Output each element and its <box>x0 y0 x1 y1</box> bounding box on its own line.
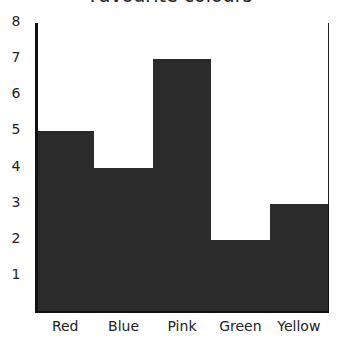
bar-cell <box>153 95 212 132</box>
bar-cell <box>270 240 329 277</box>
bar-cell <box>94 240 153 277</box>
bar-cell <box>94 204 153 241</box>
grid-cell <box>36 59 95 96</box>
bar-cell <box>36 240 95 277</box>
bar-cell <box>36 168 95 205</box>
bar-cell <box>153 240 212 277</box>
y-axis-line <box>35 23 38 313</box>
grid-cell <box>94 95 153 132</box>
chart-title: Favourite colours <box>0 0 342 6</box>
bar-cell <box>153 276 212 313</box>
grid-cell <box>270 131 329 168</box>
bar-cell <box>94 168 153 205</box>
grid-cell <box>211 204 270 241</box>
y-tick-label: 7 <box>8 49 24 65</box>
x-tick-label: Blue <box>94 318 152 334</box>
grid-cell <box>270 59 329 96</box>
grid-cell <box>211 95 270 132</box>
x-tick-label: Green <box>211 318 269 334</box>
x-tick-label: Yellow <box>270 318 328 334</box>
x-axis-line <box>35 311 329 313</box>
x-tick-label: Red <box>36 318 94 334</box>
grid-cell <box>270 95 329 132</box>
grid-cell <box>153 23 212 60</box>
bar-cell <box>270 204 329 241</box>
grid-cell <box>94 131 153 168</box>
y-tick-label: 5 <box>8 121 24 137</box>
grid-cell <box>211 131 270 168</box>
bar-cell <box>36 131 95 168</box>
bar-cell <box>211 276 270 313</box>
bar-cell <box>153 59 212 96</box>
bar-cell <box>211 240 270 277</box>
y-tick-label: 3 <box>8 194 24 210</box>
grid-cell <box>94 23 153 60</box>
bar-cell <box>153 131 212 168</box>
y-tick-label: 4 <box>8 158 24 174</box>
bar-cell <box>36 276 95 313</box>
x-tick-label: Pink <box>153 318 211 334</box>
y-tick-label: 6 <box>8 85 24 101</box>
bar-cell <box>36 204 95 241</box>
grid-cell <box>94 59 153 96</box>
grid-cell <box>36 23 95 60</box>
grid-cell <box>211 23 270 60</box>
bar-cell <box>153 168 212 205</box>
y-tick-label: 8 <box>8 13 24 29</box>
grid-cell <box>211 168 270 205</box>
bar-cell <box>94 276 153 313</box>
bar-cell <box>270 276 329 313</box>
y-tick-label: 2 <box>8 230 24 246</box>
y-tick-label: 1 <box>8 266 24 282</box>
bar-cell <box>153 204 212 241</box>
grid-cell <box>36 95 95 132</box>
grid-cell <box>270 23 329 60</box>
grid-cell <box>270 168 329 205</box>
grid-cell <box>211 59 270 96</box>
